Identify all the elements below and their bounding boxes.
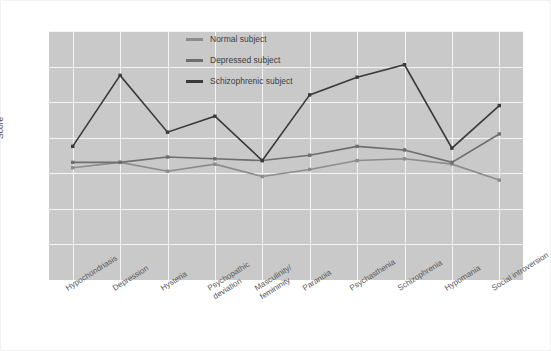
data-point-marker: [71, 166, 74, 169]
data-point-marker: [118, 161, 121, 164]
data-point-marker: [261, 159, 264, 162]
legend-color-swatch: [186, 38, 203, 41]
data-point-marker: [166, 170, 169, 173]
legend-item-1[interactable]: Normal subject: [186, 34, 293, 44]
data-point-marker: [403, 63, 406, 66]
chart-figure: 030405060708090 Score HypochondriasisDep…: [0, 0, 551, 351]
data-point-marker: [71, 161, 74, 164]
data-point-marker: [261, 175, 264, 178]
data-point-marker: [450, 161, 453, 164]
data-point-marker: [355, 75, 358, 78]
data-point-marker: [355, 159, 358, 162]
data-point-marker: [166, 130, 169, 133]
chart-legend: Normal subjectDepressed subjectSchizophr…: [186, 34, 293, 86]
data-point-marker: [213, 157, 216, 160]
legend-label: Depressed subject: [210, 55, 280, 65]
data-point-marker: [308, 93, 311, 96]
series-2: [71, 132, 501, 164]
legend-color-swatch: [186, 80, 203, 83]
data-point-marker: [403, 157, 406, 160]
series-line: [73, 159, 500, 180]
legend-item-2[interactable]: Depressed subject: [186, 55, 293, 65]
data-point-marker: [308, 168, 311, 171]
data-point-marker: [71, 145, 74, 148]
data-point-marker: [213, 115, 216, 118]
data-point-marker: [498, 178, 501, 181]
data-point-marker: [498, 132, 501, 135]
legend-label: Schizophrenic subject: [210, 76, 293, 86]
data-point-marker: [403, 148, 406, 151]
data-point-marker: [166, 155, 169, 158]
y-axis-title: Score: [0, 117, 5, 139]
data-point-marker: [118, 74, 121, 77]
data-point-marker: [498, 104, 501, 107]
data-point-marker: [450, 146, 453, 149]
data-point-marker: [355, 145, 358, 148]
legend-label: Normal subject: [210, 34, 267, 44]
data-point-marker: [308, 154, 311, 157]
legend-item-3[interactable]: Schizophrenic subject: [186, 76, 293, 86]
series-line: [73, 134, 500, 162]
data-point-marker: [213, 162, 216, 165]
legend-color-swatch: [186, 59, 203, 62]
